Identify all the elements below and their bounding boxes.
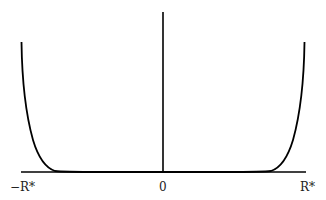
- label-zero: 0: [159, 180, 167, 194]
- diagram-canvas: [0, 0, 326, 200]
- label-neg-r-star: −R*: [10, 180, 35, 194]
- label-r-star: R*: [300, 180, 315, 194]
- right-curve: [163, 42, 305, 172]
- left-curve: [22, 42, 164, 172]
